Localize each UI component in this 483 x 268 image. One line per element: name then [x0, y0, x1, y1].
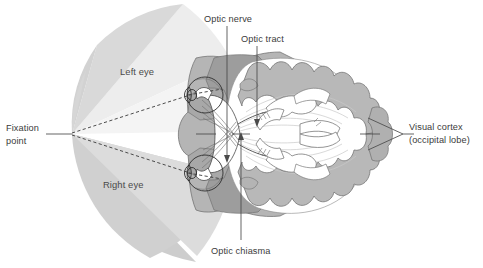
label-left-eye-field: Left eye [120, 66, 154, 77]
visual-pathway-diagram: Optic nerve Optic tract Optic chiasma Fi… [0, 0, 483, 268]
label-optic-tract: Optic tract [241, 34, 284, 44]
label-right-eye-field: Right eye [103, 179, 144, 190]
label-visual-cortex-line1: Visual cortex [409, 122, 463, 132]
label-fixation-point-line1: Fixation [6, 123, 39, 133]
diagram-canvas: Optic nerve Optic tract Optic chiasma Fi… [0, 0, 483, 268]
label-optic-chiasma: Optic chiasma [211, 246, 271, 256]
label-fixation-point-line2: point [6, 136, 27, 146]
label-optic-nerve: Optic nerve [204, 14, 252, 24]
label-visual-cortex-line2: (occipital lobe) [409, 135, 470, 145]
